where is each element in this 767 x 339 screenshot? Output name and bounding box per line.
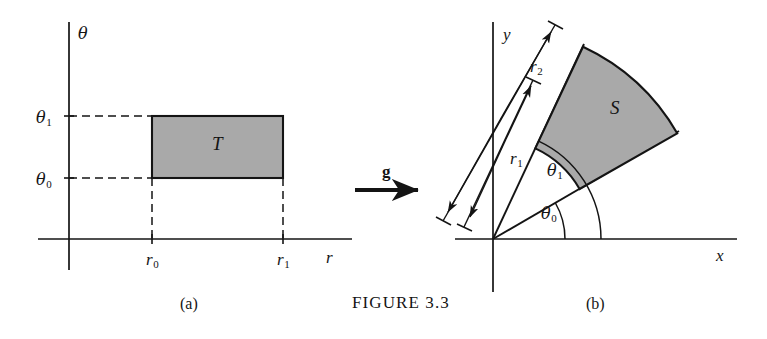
panel-b-graphics	[436, 21, 737, 292]
theta1-subscript: 1	[46, 116, 52, 128]
r2-symbol: r	[530, 57, 537, 76]
r1-subscript-b: 1	[517, 157, 523, 169]
theta1-subscript-b: 1	[557, 169, 563, 181]
theta1-symbol: θ	[36, 108, 46, 127]
region-S-label: S	[610, 98, 620, 117]
panel-a-theta0-tick-label: θ0	[36, 171, 52, 190]
theta1-symbol-b: θ	[547, 161, 557, 180]
panel-b-x-axis-label: x	[716, 247, 724, 264]
theta0-symbol: θ	[36, 170, 46, 189]
figure-caption: FIGURE 3.3	[352, 294, 450, 311]
theta0-subscript: 0	[46, 178, 52, 190]
r0-subscript: 0	[153, 258, 159, 270]
panel-a-caption: (a)	[180, 296, 198, 312]
dimension-tick-r2-end	[548, 21, 563, 29]
panel-a-graphics	[38, 22, 352, 270]
mapping-arrow-label: g	[382, 163, 391, 180]
panel-a-theta1-tick-label: θ1	[36, 109, 52, 128]
panel-a-theta-axis-label: θ	[78, 26, 88, 42]
dimension-arrow-r1-upper	[506, 86, 531, 139]
r2-subscript: 2	[537, 65, 543, 77]
panel-b-caption: (b)	[586, 296, 605, 312]
dimension-arrow-r2-upper	[500, 32, 551, 120]
panel-a-r0-tick-label: r0	[146, 251, 159, 270]
dimension-tick-r1-end	[526, 77, 541, 84]
r1-subscript: 1	[284, 258, 290, 270]
panel-b-y-axis-label: y	[503, 26, 511, 43]
figure-3-3: θ θ1 θ0 r0 r1 r T (a) g y x r2 r1 θ1 θ0 …	[0, 0, 767, 339]
theta0-subscript-b: 0	[551, 212, 557, 224]
r1-symbol: r	[277, 250, 284, 269]
panel-b-theta0-label: θ0	[541, 205, 557, 224]
panel-a-r-axis-label: r	[326, 249, 333, 266]
r0-symbol: r	[146, 250, 153, 269]
dimension-tick-r2-start	[436, 217, 451, 225]
panel-a-r1-tick-label: r1	[277, 251, 290, 270]
r1-symbol-b: r	[510, 149, 517, 168]
panel-b-theta1-label: θ1	[547, 162, 563, 181]
region-T-label: T	[212, 134, 223, 153]
dimension-arrow-r1-lower	[470, 139, 506, 217]
dimension-line-r1	[464, 80, 533, 227]
theta0-symbol-b: θ	[541, 204, 551, 223]
panel-b-r2-label: r2	[530, 58, 543, 77]
panel-b-r1-label: r1	[510, 150, 523, 169]
